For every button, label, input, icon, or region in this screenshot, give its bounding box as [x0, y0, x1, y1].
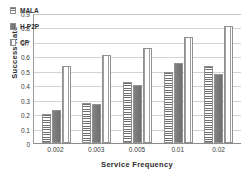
y-axis-tick-label: 0.4: [8, 83, 30, 90]
legend-swatch-icon: [10, 23, 16, 30]
bar: [224, 26, 233, 143]
x-axis-tick-labels: 0.0020.0030.0050.010.02: [33, 146, 241, 158]
bar: [42, 114, 51, 143]
y-axis-tick-label: 0.1: [8, 126, 30, 133]
y-axis-tick-label: 0.2: [8, 112, 30, 119]
bar: [143, 48, 152, 143]
bar: [174, 63, 183, 143]
bar: [52, 110, 61, 143]
legend-item: CF: [10, 36, 39, 49]
bar: [164, 72, 173, 143]
x-axis-tick-label: 0.01: [163, 146, 193, 158]
bar-group: [42, 14, 71, 143]
bar: [133, 85, 142, 143]
x-axis-tick-label: 0.002: [40, 146, 70, 158]
bar-group: [123, 14, 152, 143]
bar: [92, 104, 101, 143]
bar: [214, 74, 223, 143]
bar: [102, 55, 111, 143]
bar-group: [204, 14, 233, 143]
y-axis-tick-label: 0.3: [8, 97, 30, 104]
bar: [184, 37, 193, 143]
x-axis-tick-label: 0.005: [122, 146, 152, 158]
legend-swatch-icon: [10, 39, 16, 46]
bar: [123, 82, 132, 143]
legend-swatch-icon: [10, 7, 16, 14]
bar: [82, 103, 91, 143]
x-axis-tick-label: 0.02: [204, 146, 234, 158]
plot-area: [33, 14, 241, 144]
legend-item-label: H-P2P: [20, 23, 39, 30]
bar-group: [164, 14, 193, 143]
bar-group: [82, 14, 111, 143]
x-axis-tick-label: 0.003: [81, 146, 111, 158]
y-axis-tick-label: 0.5: [8, 68, 30, 75]
legend: MALAH-P2PCF: [10, 4, 39, 52]
legend-item: H-P2P: [10, 20, 39, 33]
x-axis-title: Service Frequency: [33, 160, 241, 169]
legend-item: MALA: [10, 4, 39, 17]
y-axis-tick-label: 0.6: [8, 54, 30, 61]
bar-groups: [34, 14, 241, 143]
legend-item-label: MALA: [20, 7, 39, 14]
legend-item-label: CF: [20, 39, 29, 46]
bar-chart: Success Rate 0.90.80.70.60.50.40.30.20.1…: [0, 0, 248, 178]
bar: [62, 66, 71, 143]
y-axis-tick-label: 0: [8, 141, 30, 148]
bar: [204, 66, 213, 143]
